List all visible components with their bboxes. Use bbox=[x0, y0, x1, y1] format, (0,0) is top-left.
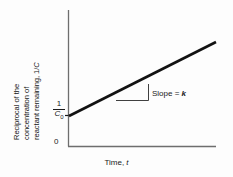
x-axis-label-text: Time, bbox=[104, 158, 126, 167]
slope-annotation: Slope = k bbox=[152, 89, 186, 98]
fraction-denominator-subscript: 0 bbox=[60, 114, 63, 120]
x-axis-label-symbol: t bbox=[126, 158, 128, 167]
x-axis-label: Time, t bbox=[0, 158, 233, 167]
fraction-numerator: 1 bbox=[52, 100, 66, 109]
y-axis-label-concentration-symbol: C bbox=[32, 62, 41, 67]
y-tick-label-initial-concentration: 1 C0 bbox=[52, 100, 66, 120]
data-line bbox=[69, 42, 216, 116]
slope-annotation-text: Slope = bbox=[152, 89, 182, 98]
y-axis-label: Reciprocal of the concentration of react… bbox=[12, 18, 46, 140]
figure-container: Reciprocal of the concentration of react… bbox=[0, 0, 233, 177]
y-axis-label-line-3: reactant remaining, 1/C bbox=[32, 62, 41, 140]
fraction-denominator: C0 bbox=[52, 110, 66, 120]
y-axis-label-line-2: concentration of bbox=[22, 87, 31, 140]
slope-annotation-symbol: k bbox=[182, 89, 186, 98]
y-axis-label-line-3-text: reactant remaining, 1/ bbox=[32, 68, 41, 140]
y-axis-label-line-1: Reciprocal of the bbox=[12, 84, 21, 140]
origin-tick-label: 0 bbox=[54, 137, 58, 146]
